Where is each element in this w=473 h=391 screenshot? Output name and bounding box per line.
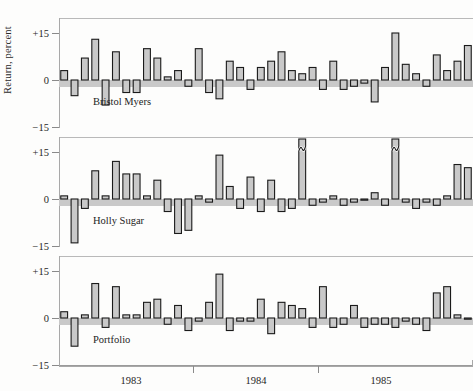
bar <box>185 199 192 230</box>
y-tick-top <box>52 33 59 34</box>
bar <box>216 274 223 318</box>
bar <box>433 55 440 80</box>
y-tick-label-bottom: −15 <box>33 122 49 133</box>
bar <box>81 315 88 318</box>
bar <box>61 196 68 199</box>
bar <box>382 318 389 324</box>
y-tick-label-mid: 0 <box>44 194 49 205</box>
y-tick-mid <box>52 318 59 319</box>
bar <box>278 199 285 212</box>
bar <box>268 61 275 80</box>
bar <box>330 196 337 199</box>
bar <box>371 193 378 199</box>
bar <box>206 302 213 318</box>
bar <box>195 196 202 199</box>
bar <box>113 161 120 199</box>
bar <box>320 80 327 89</box>
bar <box>144 196 151 199</box>
bar <box>371 80 378 102</box>
bar <box>433 199 440 205</box>
bar <box>237 318 244 321</box>
bar <box>413 318 420 324</box>
bar <box>361 318 368 327</box>
bar <box>247 80 254 89</box>
bar-series-holly-sugar <box>59 137 473 247</box>
bar <box>454 315 461 318</box>
bar <box>144 49 151 80</box>
bar <box>299 309 306 318</box>
bar <box>61 312 68 318</box>
bar <box>340 80 347 89</box>
bar <box>102 318 109 327</box>
bar <box>320 199 327 202</box>
bar <box>351 199 358 202</box>
bar <box>206 80 213 93</box>
panel-bristol-myers: +15 0 −15 Bristol Myers <box>59 18 473 128</box>
x-axis-label-1983: 1983 <box>121 375 142 386</box>
panel-portfolio: +15 0 −15 Portfolio <box>59 256 473 366</box>
bar <box>382 199 389 205</box>
bar <box>102 196 109 199</box>
bar <box>288 305 295 318</box>
y-tick-top <box>52 152 59 153</box>
bar <box>113 287 120 318</box>
bar <box>361 199 368 200</box>
bar <box>206 199 213 202</box>
bar <box>423 199 430 202</box>
bar <box>268 180 275 199</box>
bar <box>464 168 471 199</box>
y-axis-title: Return, percent <box>2 0 18 130</box>
bar <box>133 174 140 199</box>
bar <box>392 318 399 327</box>
bar <box>175 305 182 318</box>
bar <box>133 80 140 93</box>
bar <box>195 318 202 321</box>
y-tick-bottom <box>52 127 59 128</box>
bar <box>330 318 337 327</box>
bar <box>278 302 285 318</box>
bar <box>175 71 182 80</box>
bar <box>123 80 130 93</box>
bar <box>402 318 409 321</box>
bar <box>402 199 409 202</box>
bar <box>164 199 171 212</box>
bar <box>92 284 99 318</box>
bar <box>268 318 275 334</box>
plot-area-bristol-myers <box>59 18 473 128</box>
bar <box>299 74 306 80</box>
bar <box>288 199 295 208</box>
bar <box>237 67 244 80</box>
bar <box>216 80 223 99</box>
bar <box>257 67 264 80</box>
bar <box>351 80 358 86</box>
bar <box>351 305 358 318</box>
bar <box>113 52 120 80</box>
bar <box>123 315 130 318</box>
plot-area-holly-sugar <box>59 137 473 247</box>
bar <box>371 318 378 324</box>
x-axis-label-1985: 1985 <box>371 375 392 386</box>
bar <box>423 80 430 86</box>
bar <box>154 180 161 199</box>
plot-area-portfolio <box>59 256 473 366</box>
bar <box>361 80 368 83</box>
bar <box>433 293 440 318</box>
bar <box>444 287 451 318</box>
bar <box>226 61 233 80</box>
bar <box>464 46 471 80</box>
bar <box>92 171 99 199</box>
bar <box>340 318 347 324</box>
y-tick-label-bottom: −15 <box>33 241 49 252</box>
bar <box>175 199 182 233</box>
bar <box>164 77 171 80</box>
bar <box>309 199 316 205</box>
y-tick-bottom <box>52 365 59 366</box>
panel-holly-sugar: +15 0 −15 Holly Sugar <box>59 137 473 247</box>
bar <box>81 199 88 208</box>
bar <box>413 199 420 208</box>
bar <box>382 67 389 80</box>
series-label-holly-sugar: Holly Sugar <box>93 215 144 226</box>
bar <box>309 67 316 80</box>
series-label-bristol-myers: Bristol Myers <box>93 96 151 107</box>
bar <box>247 318 254 321</box>
